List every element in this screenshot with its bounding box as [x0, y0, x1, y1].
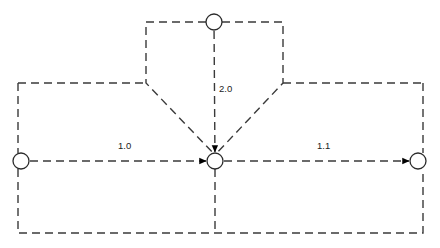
center-node[interactable] — [207, 153, 223, 169]
edge-weight-label-1-1: 1.1 — [317, 140, 330, 151]
edge-weight-label-2-0: 2.0 — [219, 83, 232, 94]
inner-funnel-left-branch — [146, 22, 215, 155]
outer-feedback-loop — [18, 169, 423, 233]
edge-layer — [30, 31, 409, 161]
left-node[interactable] — [13, 153, 29, 169]
loop-layer — [18, 22, 423, 233]
edge-weight-label-1-0: 1.0 — [118, 140, 131, 151]
diagram-canvas: 1.0 2.0 1.1 — [0, 0, 440, 248]
label-layer: 1.0 2.0 1.1 — [118, 83, 330, 151]
top-node[interactable] — [206, 14, 222, 30]
right-node[interactable] — [410, 153, 426, 169]
graph-svg: 1.0 2.0 1.1 — [0, 0, 440, 248]
edge-top-to-center[interactable] — [214, 31, 215, 152]
